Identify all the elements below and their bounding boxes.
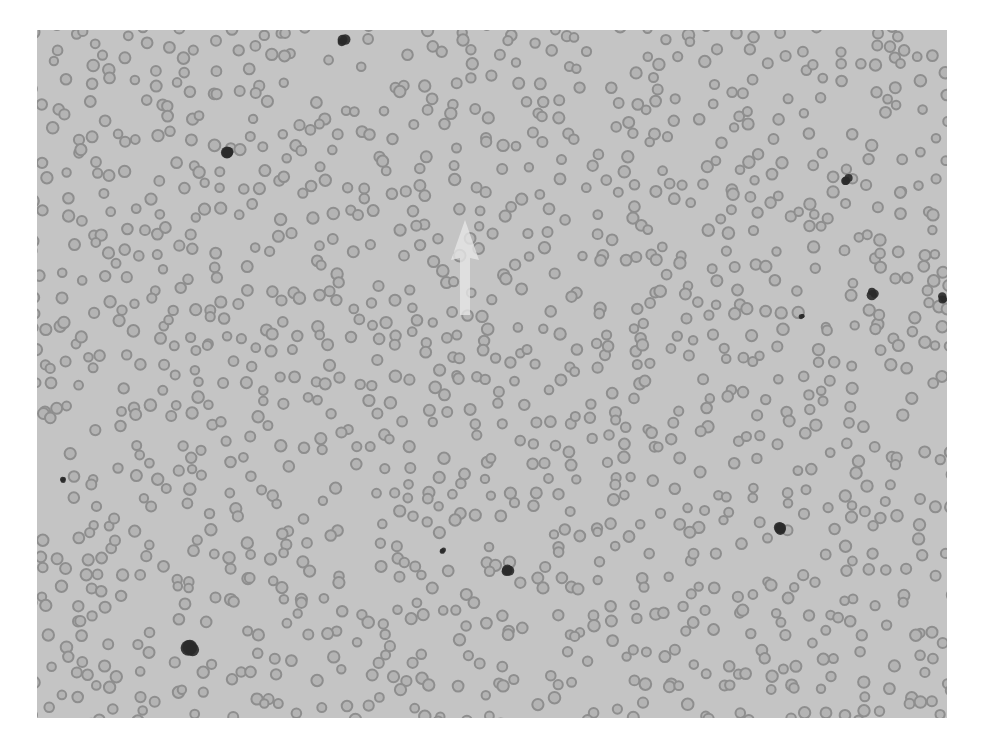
cells-layer (37, 30, 947, 718)
red-blood-cells (37, 30, 947, 718)
blood-smear-micrograph (37, 30, 947, 718)
